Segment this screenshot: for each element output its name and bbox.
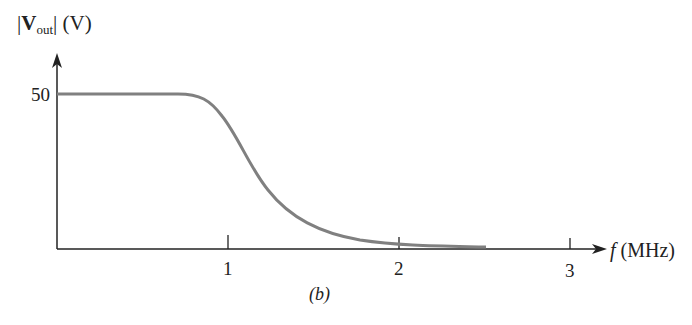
x-axis-symbol: f — [610, 239, 616, 261]
x-tick-label-2: 2 — [394, 259, 404, 278]
x-axis-label: f (MHz) — [610, 240, 675, 260]
vout-curve — [57, 94, 486, 247]
y-axis-symbol: V — [21, 11, 36, 35]
chart-plot — [0, 0, 692, 325]
y-axis-subscript: out — [36, 22, 53, 37]
y-axis-label: |Vout| (V) — [17, 13, 92, 36]
x-axis-unit: (MHz) — [621, 239, 675, 261]
x-tick-label-1: 1 — [223, 259, 233, 278]
y-axis-unit: (V) — [62, 11, 91, 35]
abs-bar-close: | — [53, 11, 57, 35]
y-tick-label-50: 50 — [31, 85, 50, 104]
x-tick-label-3: 3 — [565, 261, 575, 280]
panel-label: (b) — [309, 285, 330, 303]
